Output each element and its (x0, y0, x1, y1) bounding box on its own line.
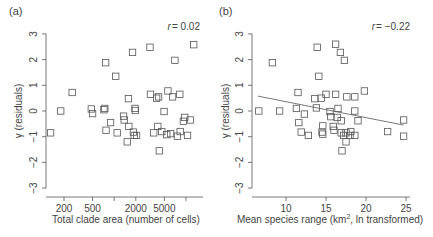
panel-b-points (256, 41, 407, 154)
data-point (161, 108, 167, 114)
panel-a-y-axis-label: γ (residuals) (13, 84, 24, 138)
data-point (107, 119, 113, 125)
y-tick-label: −2 (28, 156, 39, 168)
data-point (318, 95, 324, 101)
data-point (269, 59, 275, 65)
data-point (47, 130, 53, 136)
panel-b-x-axis-label: Mean species range (km2, ln transformed) (237, 213, 423, 225)
data-point (165, 88, 171, 94)
data-point (156, 148, 162, 154)
x-tick-label: 10 (280, 203, 292, 214)
data-point (147, 91, 153, 97)
data-point (103, 127, 109, 133)
data-point (293, 105, 299, 111)
data-point (298, 129, 304, 135)
panel-b-regression-line (258, 96, 404, 125)
data-point (296, 119, 302, 125)
data-point (343, 139, 349, 145)
x-tick-label: 500 (84, 203, 101, 214)
y-tick-label: −2 (234, 156, 245, 168)
x-tick-label: 2000 (125, 203, 148, 214)
data-point (332, 41, 338, 47)
panel-a-y-tick-labels: −3−2−10123 (28, 31, 39, 194)
data-point (344, 94, 350, 100)
panel-a-correlation: r= 0.02 (168, 21, 201, 32)
data-point (69, 89, 75, 95)
panel-b: (b) r= −0.22 −3−2−10123 10152025 γ (resi… (219, 5, 423, 225)
y-tick-label: −3 (234, 182, 245, 194)
y-tick-label: 3 (28, 31, 39, 37)
data-point (384, 128, 390, 134)
y-tick-label: −3 (28, 182, 39, 194)
data-point (316, 73, 322, 79)
data-point (323, 91, 329, 97)
y-tick-label: 2 (28, 56, 39, 62)
y-tick-label: 0 (234, 108, 245, 114)
data-point (295, 89, 301, 95)
panel-b-label: (b) (219, 5, 232, 17)
panel-a-x-axis-label: Total clade area (number of cells) (52, 214, 200, 225)
x-tick-label: 20 (360, 203, 372, 214)
panel-b-axes (248, 34, 410, 201)
y-tick-label: 0 (28, 108, 39, 114)
data-point (132, 105, 138, 111)
x-tick-label: 25 (400, 203, 412, 214)
data-point (339, 148, 345, 154)
data-point (352, 132, 358, 138)
data-point (320, 123, 326, 129)
panel-a: (a) r= 0.02 −3−2−10123 20050020005000 γ … (9, 5, 203, 225)
y-tick-label: −1 (28, 131, 39, 143)
y-tick-label: 2 (234, 56, 245, 62)
panel-a-x-tick-labels: 20050020005000 (56, 203, 176, 214)
y-tick-label: 1 (234, 82, 245, 88)
data-point (129, 49, 135, 55)
data-point (332, 91, 338, 97)
data-point (276, 108, 282, 114)
panel-b-y-axis-label: γ (residuals) (220, 84, 231, 138)
data-point (340, 132, 346, 138)
data-point (338, 130, 344, 136)
data-point (124, 139, 130, 145)
panel-b-correlation: r= −0.22 (372, 21, 411, 32)
data-point (151, 130, 157, 136)
x-tick-label: 5000 (153, 203, 176, 214)
panel-a-label: (a) (9, 5, 22, 17)
x-tick-label: 15 (320, 203, 332, 214)
data-point (335, 105, 341, 111)
data-point (147, 44, 153, 50)
data-point (184, 132, 190, 138)
data-point (256, 108, 262, 114)
data-point (301, 111, 307, 117)
data-point (172, 57, 178, 63)
data-point (113, 73, 119, 79)
y-tick-label: −1 (234, 131, 245, 143)
data-point (400, 117, 406, 123)
data-point (352, 108, 358, 114)
y-tick-label: 1 (28, 82, 39, 88)
data-point (400, 133, 406, 139)
data-point (355, 118, 361, 124)
data-point (114, 130, 120, 136)
data-point (58, 108, 64, 114)
data-point (190, 41, 196, 47)
data-point (361, 88, 367, 94)
y-tick-label: 3 (234, 31, 245, 37)
data-point (174, 133, 180, 139)
panel-a-points (47, 41, 197, 154)
data-point (352, 94, 358, 100)
panel-a-axes (42, 34, 203, 201)
data-point (169, 94, 175, 100)
panel-b-y-tick-labels: −3−2−10123 (234, 31, 245, 194)
data-point (314, 44, 320, 50)
data-point (312, 95, 318, 101)
figure: (a) r= 0.02 −3−2−10123 20050020005000 γ … (0, 0, 433, 237)
data-point (132, 107, 138, 113)
data-point (305, 132, 311, 138)
data-point (125, 95, 131, 101)
x-tick-label: 200 (56, 203, 73, 214)
data-point (102, 59, 108, 65)
data-point (177, 91, 183, 97)
data-point (337, 49, 343, 55)
data-point (341, 57, 347, 63)
data-point (177, 128, 183, 134)
